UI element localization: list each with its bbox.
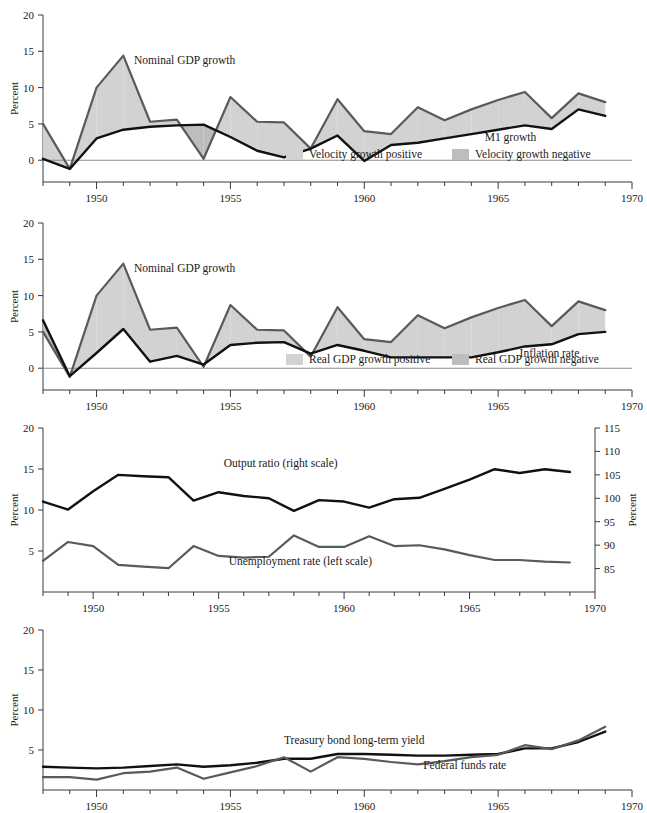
panel-3-ytick-right-label: 90 <box>604 539 616 551</box>
panel-1-svg: 0510152019501955196019651970PercentNomin… <box>0 0 647 200</box>
panel-4-xtick-label: 1960 <box>353 800 376 812</box>
panel-3-ytick-right-label: 105 <box>604 469 621 481</box>
panel-2-fill-segment <box>391 315 418 357</box>
panel-4-svg: 510152019501955196019651970PercentTreasu… <box>0 612 647 813</box>
panel-1-legend-label: Velocity growth negative <box>475 148 591 161</box>
figure-multipanel-chart: 0510152019501955196019651970PercentNomin… <box>0 0 647 813</box>
panel-1-series-label: M1 growth <box>485 131 537 144</box>
panel-2-ytick-label: 0 <box>29 362 35 374</box>
panel-3-series-label: Output ratio (right scale) <box>224 457 338 470</box>
panel-2-xtick-label: 1955 <box>219 400 242 412</box>
panel-3-axis-frame <box>43 428 595 592</box>
panel-1-xtick-label: 1950 <box>86 192 109 204</box>
panel-2-ytick-label: 15 <box>23 253 35 265</box>
panel-3-ytick-label: 20 <box>23 422 35 434</box>
panel-1-xtick-label: 1960 <box>353 192 376 204</box>
panel-1-xtick-label: 1970 <box>621 192 644 204</box>
panel-4-ytick-label: 10 <box>23 704 35 716</box>
panel-4-xtick-label: 1965 <box>487 800 510 812</box>
panel-2-container: 0510152019501955196019651970PercentNomin… <box>0 205 647 410</box>
panel-1-legend-swatch <box>286 149 303 160</box>
panel-1-xtick-label: 1965 <box>487 192 510 204</box>
panel-3-ytick-right-label: 85 <box>604 563 616 575</box>
panel-3-ytick-right-label: 110 <box>604 445 621 457</box>
panel-3-ytick-label: 15 <box>23 463 35 475</box>
panel-1-series-label: Nominal GDP growth <box>134 54 235 67</box>
panel-3-ylabel-right: Percent <box>626 494 638 527</box>
panel-1-xtick-label: 1955 <box>219 192 242 204</box>
panel-2-ytick-label: 5 <box>29 326 35 338</box>
panel-3-ylabel: Percent <box>8 494 20 527</box>
panel-2-ytick-label: 10 <box>23 290 35 302</box>
panel-1-fill-segment <box>391 107 418 145</box>
panel-2-xtick-label: 1970 <box>621 400 644 412</box>
panel-2-legend-swatch <box>286 354 303 365</box>
panel-3-series-label: Unemployment rate (left scale) <box>229 555 373 568</box>
panel-4-ytick-label: 5 <box>29 744 35 756</box>
panel-4-series-label: Federal funds rate <box>423 759 506 771</box>
panel-2-xtick-label: 1965 <box>487 400 510 412</box>
panel-2-legend-label: Real GDP growth negative <box>475 353 599 366</box>
panel-2-legend-label: Real GDP growth positive <box>309 353 430 366</box>
panel-1-ytick-label: 10 <box>23 82 35 94</box>
panel-4-container: 510152019501955196019651970PercentTreasu… <box>0 612 647 813</box>
panel-1-ytick-label: 15 <box>23 45 35 57</box>
panel-3-series-line <box>43 469 570 511</box>
panel-2-svg: 0510152019501955196019651970PercentNomin… <box>0 205 647 410</box>
panel-2-series-label: Nominal GDP growth <box>134 262 235 275</box>
panel-4-ytick-label: 15 <box>23 664 35 676</box>
panel-2-fill-segment <box>338 307 365 351</box>
panel-1-container: 0510152019501955196019651970PercentNomin… <box>0 0 647 200</box>
panel-3-ytick-right-label: 100 <box>604 492 621 504</box>
panel-1-ytick-label: 0 <box>29 154 35 166</box>
panel-2-fill-segment <box>257 330 284 343</box>
panel-1-fill-segment <box>525 92 552 129</box>
panel-4-series-label: Treasury bond long-term yield <box>284 734 425 747</box>
panel-4-xtick-label: 1950 <box>86 800 109 812</box>
panel-1-ytick-label: 20 <box>23 9 35 21</box>
panel-1-ylabel: Percent <box>8 82 20 115</box>
panel-4-ytick-label: 20 <box>23 624 35 636</box>
panel-3-container: 5101520859095100105110115195019551960196… <box>0 412 647 607</box>
panel-1-legend-label: Velocity growth positive <box>309 148 422 161</box>
panel-4-xtick-label: 1970 <box>621 800 644 812</box>
panel-2-ylabel: Percent <box>8 290 20 323</box>
panel-3-ytick-label: 5 <box>29 545 35 557</box>
panel-4-xtick-label: 1955 <box>219 800 242 812</box>
panel-1-ytick-label: 5 <box>29 118 35 130</box>
panel-1-fill-segment <box>97 56 124 139</box>
panel-2-xtick-label: 1960 <box>353 400 376 412</box>
panel-1-legend-swatch <box>452 149 469 160</box>
panel-3-ytick-right-label: 95 <box>604 516 616 528</box>
panel-4-ylabel: Percent <box>8 694 20 727</box>
panel-2-xtick-label: 1950 <box>86 400 109 412</box>
panel-3-ytick-right-label: 115 <box>604 422 621 434</box>
panel-2-legend-swatch <box>452 354 469 365</box>
panel-3-svg: 5101520859095100105110115195019551960196… <box>0 412 647 607</box>
panel-2-ytick-label: 20 <box>23 217 35 229</box>
panel-3-ytick-label: 10 <box>23 504 35 516</box>
